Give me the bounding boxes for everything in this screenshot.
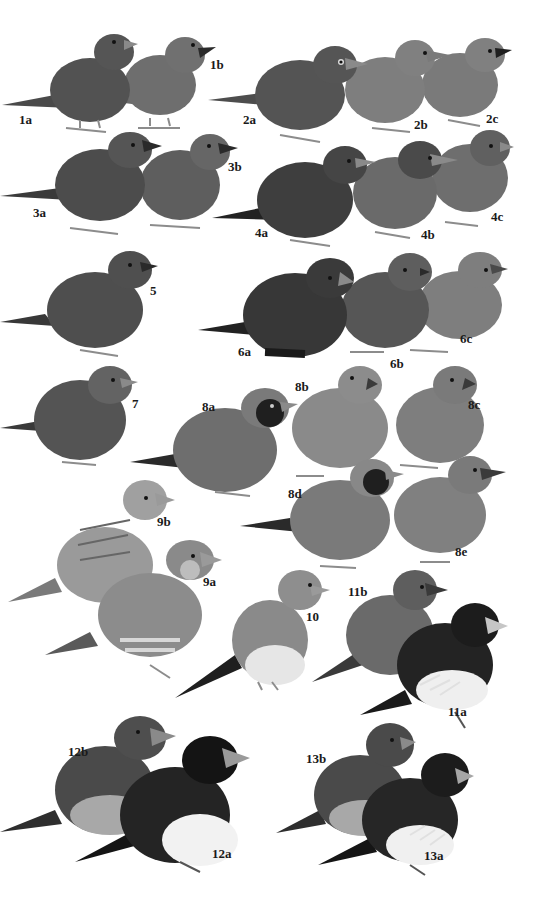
label-6c: 6c: [460, 332, 472, 345]
label-11b: 11b: [348, 585, 368, 598]
label-1b: 1b: [210, 58, 224, 71]
label-11a: 11a: [448, 705, 467, 718]
label-3a: 3a: [33, 206, 46, 219]
bird-illustration-plate: 1a 1b 2a 2b 2c 3a 3b 4a 4b 4c 5 6a 6b 6c…: [0, 0, 555, 908]
label-13b: 13b: [306, 752, 326, 765]
bird-2c: [422, 38, 512, 126]
label-3b: 3b: [228, 160, 242, 173]
bird-2a: [208, 46, 368, 142]
label-13a: 13a: [424, 849, 444, 862]
label-8e: 8e: [455, 545, 467, 558]
label-4c: 4c: [491, 210, 503, 223]
bird-5: [0, 251, 158, 356]
label-8c: 8c: [468, 398, 480, 411]
label-4a: 4a: [255, 226, 268, 239]
label-8a: 8a: [202, 400, 215, 413]
label-12b: 12b: [68, 745, 88, 758]
label-1a: 1a: [19, 113, 32, 126]
birds-artwork: [0, 0, 555, 908]
label-8b: 8b: [295, 380, 309, 393]
label-9a: 9a: [203, 575, 216, 588]
label-8d: 8d: [288, 487, 302, 500]
bird-8e: [394, 456, 506, 562]
label-6a: 6a: [238, 345, 251, 358]
label-2b: 2b: [414, 118, 428, 131]
label-9b: 9b: [157, 515, 171, 528]
label-2a: 2a: [243, 113, 256, 126]
label-10: 10: [306, 610, 319, 623]
label-6b: 6b: [390, 357, 404, 370]
label-5: 5: [150, 284, 157, 297]
bird-10: [175, 570, 330, 698]
bird-6a: [198, 258, 354, 357]
label-12a: 12a: [212, 847, 232, 860]
label-7: 7: [132, 397, 139, 410]
bird-6b: [341, 253, 432, 352]
bird-8c: [396, 366, 484, 468]
label-2c: 2c: [486, 112, 498, 125]
bird-3a: [0, 132, 162, 234]
bird-7: [0, 366, 138, 465]
label-4b: 4b: [421, 228, 435, 241]
